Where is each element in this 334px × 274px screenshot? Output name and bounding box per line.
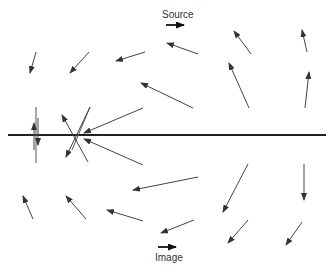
field-arrow-top-left-1: [30, 52, 36, 73]
field-arrow-near-line-upper: [84, 108, 143, 133]
field-arrow-bottom-right-1: [228, 220, 248, 243]
field-arrow-top-mid-2: [167, 43, 198, 54]
field-arrow-mid-3: [305, 72, 309, 108]
field-arrow-top-right-1: [234, 31, 251, 54]
field-arrow-low-mid-2: [223, 164, 248, 212]
image-label: Image: [155, 252, 183, 263]
field-arrow-top-right-2: [302, 30, 307, 52]
field-arrow-bottom-left-1: [23, 196, 33, 219]
source-label: Source: [162, 9, 194, 20]
field-arrow-near-line-lower: [84, 139, 143, 165]
field-arrow-top-mid-1: [116, 52, 145, 61]
field-arrow-bottom-mid-2: [161, 220, 194, 233]
field-arrow-mid-1: [141, 83, 193, 108]
field-arrow-mid-2: [229, 63, 249, 108]
field-arrow-bottom-right-2: [286, 222, 302, 245]
field-arrow-low-mid-1: [133, 177, 198, 190]
field-arrow-bottom-left-2: [66, 196, 86, 219]
field-arrow-top-left-2: [70, 52, 89, 73]
field-diagram: [0, 0, 334, 274]
field-arrow-bottom-mid-1: [107, 210, 143, 221]
